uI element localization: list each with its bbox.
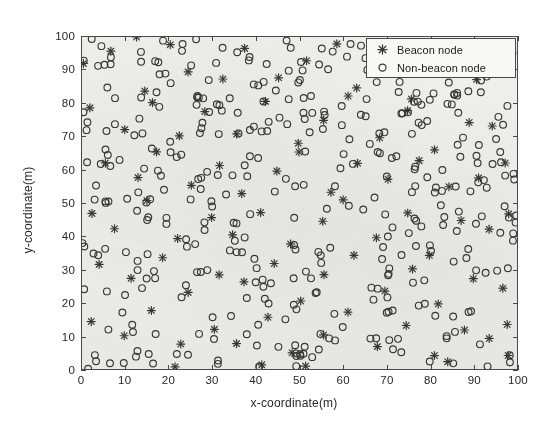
non-beacon-node-marker <box>507 359 514 366</box>
non-beacon-node-marker <box>145 351 152 358</box>
legend-label-non-beacon-node: Non-beacon node <box>397 62 486 74</box>
beacon-node-marker <box>376 134 384 142</box>
non-beacon-node-marker <box>187 196 194 203</box>
non-beacon-node-marker <box>455 109 462 116</box>
non-beacon-node-marker <box>138 49 145 56</box>
non-beacon-node-marker <box>390 346 397 353</box>
non-beacon-node-marker <box>388 155 395 162</box>
x-tick-mark <box>168 36 169 41</box>
scatter-figure: 0102030405060708090100010203040506070809… <box>0 0 552 446</box>
non-beacon-node-marker <box>167 80 174 87</box>
non-beacon-node-marker <box>418 223 425 230</box>
non-beacon-node-marker <box>243 331 250 338</box>
y-tick-mark <box>81 370 86 371</box>
non-beacon-node-marker <box>292 342 299 349</box>
non-beacon-node-marker <box>105 326 112 333</box>
y-tick-label: 40 <box>41 230 75 242</box>
y-tick-mark <box>513 170 518 171</box>
non-beacon-node-marker <box>308 275 315 282</box>
non-beacon-node-marker <box>151 268 158 275</box>
beacon-node-marker <box>143 197 151 205</box>
non-beacon-node-marker <box>395 335 402 342</box>
y-tick-label: 10 <box>41 331 75 343</box>
plot-area <box>81 36 518 370</box>
non-beacon-node-marker <box>382 211 389 218</box>
non-beacon-node-marker <box>260 283 267 290</box>
non-beacon-node-marker <box>123 249 130 256</box>
non-beacon-node-marker <box>497 149 504 156</box>
beacon-node-marker <box>402 322 410 330</box>
beacon-node-marker <box>430 352 438 360</box>
non-beacon-node-marker <box>82 109 87 116</box>
x-tick-mark <box>125 365 126 370</box>
non-beacon-node-marker <box>122 292 129 299</box>
x-tick-mark <box>256 365 257 370</box>
non-beacon-node-marker <box>204 267 211 274</box>
y-tick-mark <box>81 337 86 338</box>
beacon-node-marker <box>257 209 265 217</box>
non-beacon-node-marker <box>338 122 345 129</box>
beacon-node-marker <box>233 340 241 348</box>
non-beacon-node-marker <box>450 313 457 320</box>
beacon-node-marker <box>503 321 511 329</box>
non-beacon-node-marker <box>134 258 141 265</box>
non-beacon-node-marker <box>338 103 345 110</box>
non-beacon-node-marker <box>267 280 274 287</box>
beacon-node-marker <box>175 132 183 140</box>
y-tick-mark <box>513 303 518 304</box>
beacon-node-marker <box>344 308 352 316</box>
non-beacon-node-marker <box>303 268 310 275</box>
non-beacon-node-marker <box>82 286 88 293</box>
beacon-node-marker <box>147 307 155 315</box>
y-tick-mark <box>513 270 518 271</box>
non-beacon-node-marker <box>155 167 162 174</box>
non-beacon-node-marker <box>475 142 482 149</box>
non-beacon-node-marker <box>129 321 136 328</box>
non-beacon-node-marker <box>95 62 102 69</box>
non-beacon-node-marker <box>393 153 400 160</box>
non-beacon-node-marker <box>497 229 504 236</box>
beacon-node-marker <box>107 47 115 55</box>
non-beacon-node-marker <box>512 219 517 226</box>
non-beacon-node-marker <box>292 183 299 190</box>
y-tick-mark <box>513 337 518 338</box>
non-beacon-node-marker <box>368 284 375 291</box>
non-beacon-node-marker <box>234 109 241 116</box>
y-tick-label: 30 <box>41 264 75 276</box>
non-beacon-node-marker <box>228 313 235 320</box>
y-tick-mark <box>81 69 86 70</box>
non-beacon-node-marker <box>144 251 151 258</box>
non-beacon-node-marker <box>437 202 444 209</box>
non-beacon-node-marker <box>329 48 336 55</box>
non-beacon-node-marker <box>409 189 416 196</box>
non-beacon-node-marker <box>287 44 294 51</box>
non-beacon-node-marker <box>398 252 405 259</box>
non-beacon-node-marker <box>184 243 191 250</box>
non-beacon-node-marker <box>150 360 157 367</box>
beacon-node-marker <box>319 217 327 225</box>
beacon-node-marker <box>488 122 496 130</box>
non-beacon-node-marker <box>204 168 211 175</box>
beacon-node-marker <box>166 41 174 49</box>
non-beacon-node-marker <box>467 188 474 195</box>
x-tick-label: 60 <box>337 374 350 386</box>
non-beacon-node-marker <box>501 203 508 210</box>
non-beacon-node-marker <box>450 258 457 265</box>
non-beacon-node-marker <box>315 346 322 353</box>
beacon-node-marker <box>499 284 507 292</box>
beacon-node-marker <box>88 209 96 217</box>
x-tick-mark <box>431 365 432 370</box>
non-beacon-node-marker <box>124 195 131 202</box>
non-beacon-node-marker <box>410 279 417 286</box>
non-beacon-node-marker <box>285 96 292 103</box>
beacon-node-marker <box>82 59 87 67</box>
beacon-node-marker <box>333 40 341 48</box>
non-beacon-node-marker <box>178 294 185 301</box>
beacon-node-marker <box>373 343 381 351</box>
non-beacon-node-marker <box>432 312 439 319</box>
x-tick-mark <box>125 36 126 41</box>
legend-item-beacon-node: Beacon node <box>367 40 517 59</box>
beacon-node-marker <box>457 217 465 225</box>
non-beacon-node-marker <box>254 342 261 349</box>
beacon-node-marker <box>409 265 417 273</box>
